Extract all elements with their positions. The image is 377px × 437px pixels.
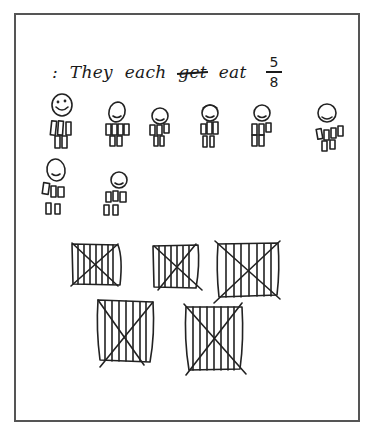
crossed-pizza-icon	[153, 244, 202, 290]
crossed-pizza-icon	[97, 300, 153, 367]
stick-figure-icon	[201, 105, 218, 147]
stick-figure-icon	[252, 105, 271, 146]
crossed-pizza-icon	[214, 241, 280, 303]
stick-figure-icon	[106, 100, 129, 146]
stick-figure-icon	[316, 104, 343, 151]
stick-figure-icon	[50, 94, 72, 148]
stick-figure-icon	[42, 158, 67, 214]
sketch-drawing	[0, 0, 377, 437]
stick-figure-icon	[150, 108, 169, 146]
crossed-pizza-icon	[184, 303, 246, 375]
stick-figure-icon	[104, 172, 127, 215]
crossed-pizza-icon	[71, 243, 121, 286]
